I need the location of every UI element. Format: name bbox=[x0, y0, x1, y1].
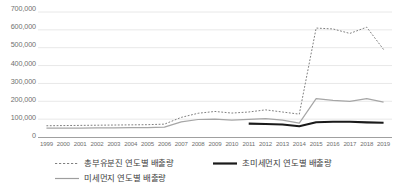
x-tick-label: 2001 bbox=[74, 139, 87, 148]
series-lines bbox=[46, 27, 383, 128]
x-tick-label: 2013 bbox=[276, 139, 289, 148]
y-tick-label: 700,000 bbox=[0, 5, 36, 13]
x-tick-label: 2014 bbox=[293, 139, 306, 148]
plot-svg bbox=[38, 8, 392, 140]
y-tick-label: 600,000 bbox=[0, 23, 36, 31]
solid-line-marker bbox=[55, 174, 79, 183]
x-tick-label: 1999 bbox=[40, 139, 53, 148]
y-tick-label: 400,000 bbox=[0, 60, 36, 68]
x-tick-label: 2015 bbox=[310, 139, 323, 148]
x-tick-label: 2010 bbox=[225, 139, 238, 148]
series-line bbox=[46, 99, 383, 128]
x-tick-label: 2016 bbox=[327, 139, 340, 148]
x-tick-label: 2002 bbox=[91, 139, 104, 148]
x-tick-label: 2006 bbox=[158, 139, 171, 148]
dotted-line-marker bbox=[55, 159, 79, 168]
x-axis: 1999200020012002200320042005200620072008… bbox=[38, 139, 392, 150]
series-line bbox=[249, 122, 384, 126]
x-tick-label: 2004 bbox=[124, 139, 137, 148]
x-tick-label: 2003 bbox=[107, 139, 120, 148]
chart-legend: 총부유분진 연도별 배출량 초미세먼지 연도별 배출량 미세먼지 연도별 배출량 bbox=[0, 155, 397, 191]
legend-item-total-suspended-particles[interactable]: 총부유분진 연도별 배출량 bbox=[55, 157, 174, 169]
y-tick-label: 300,000 bbox=[0, 78, 36, 86]
x-tick-label: 2019 bbox=[377, 139, 390, 148]
x-tick-label: 2009 bbox=[209, 139, 222, 148]
x-tick-label: 2000 bbox=[57, 139, 70, 148]
chart-container: 700,000 600,000 500,000 400,000 300,000 … bbox=[0, 0, 397, 192]
legend-item-label: 총부유분진 연도별 배출량 bbox=[84, 158, 174, 168]
y-tick-label: 0 bbox=[0, 132, 36, 140]
y-tick-label: 100,000 bbox=[0, 114, 36, 122]
x-tick-label: 2005 bbox=[141, 139, 154, 148]
x-tick-label: 2008 bbox=[192, 139, 205, 148]
series-line bbox=[46, 27, 383, 126]
x-tick-label: 2018 bbox=[360, 139, 373, 148]
gridlines bbox=[38, 12, 392, 119]
legend-item-label: 미세먼지 연도별 배출량 bbox=[84, 173, 166, 183]
x-tick-label: 2012 bbox=[259, 139, 272, 148]
y-tick-label: 200,000 bbox=[0, 96, 36, 104]
plot-area bbox=[38, 8, 392, 137]
x-tick-label: 2011 bbox=[242, 139, 255, 148]
bold-line-marker bbox=[213, 159, 237, 168]
x-tick-label: 2007 bbox=[175, 139, 188, 148]
y-axis: 700,000 600,000 500,000 400,000 300,000 … bbox=[0, 0, 36, 145]
y-tick-label: 500,000 bbox=[0, 41, 36, 49]
legend-item-pm10[interactable]: 미세먼지 연도별 배출량 bbox=[55, 172, 166, 184]
legend-item-label: 초미세먼지 연도별 배출량 bbox=[242, 158, 332, 168]
x-tick-label: 2017 bbox=[343, 139, 356, 148]
legend-item-pm25[interactable]: 초미세먼지 연도별 배출량 bbox=[213, 157, 332, 169]
